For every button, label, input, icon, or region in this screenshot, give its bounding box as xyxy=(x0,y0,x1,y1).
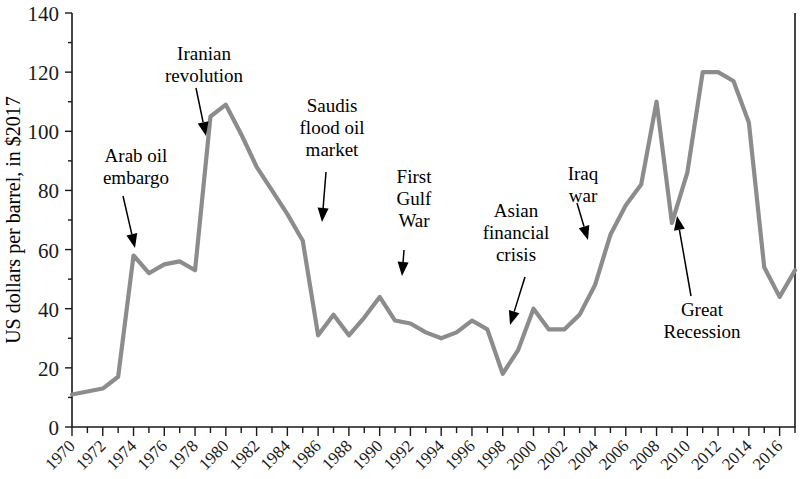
annotation-label: Saudis xyxy=(307,95,358,116)
chart-page: 020406080100120140 197019721974197619781… xyxy=(0,0,811,479)
y-axis-ticks: 020406080100120140 xyxy=(28,2,73,440)
x-tick-label: 1998 xyxy=(472,436,509,473)
oil-price-line-chart: 020406080100120140 197019721974197619781… xyxy=(0,0,811,479)
data-series-line xyxy=(72,72,795,394)
x-tick-label: 2012 xyxy=(687,436,724,473)
annotation-label: Iranian xyxy=(177,43,231,64)
y-tick-label: 20 xyxy=(38,357,59,381)
y-tick-label: 80 xyxy=(38,179,59,203)
annotation-label: Arab oil xyxy=(105,145,168,166)
annotation-label: market xyxy=(306,139,359,160)
y-tick-label: 60 xyxy=(38,239,59,263)
x-tick-label: 2004 xyxy=(564,436,602,474)
annotation-label: Asian xyxy=(494,200,539,221)
y-tick-label: 100 xyxy=(28,120,60,144)
annotation-label: Iraq xyxy=(568,163,599,184)
annotation-arrowhead xyxy=(318,208,329,222)
annotation-label: Great xyxy=(681,299,724,320)
y-tick-label: 40 xyxy=(38,298,59,322)
annotation-arrowhead xyxy=(398,262,409,276)
x-tick-label: 1976 xyxy=(134,436,171,473)
x-tick-label: 2014 xyxy=(718,436,756,474)
y-axis-title: US dollars per barrel, in $2017 xyxy=(2,96,25,344)
annotation-leader xyxy=(577,203,584,227)
annotation-label: War xyxy=(398,210,430,231)
annotation-arrowhead xyxy=(579,225,590,240)
annotation-leader xyxy=(679,230,691,296)
annotation-arrowhead xyxy=(674,216,685,231)
annotation-first-gulf-war: FirstGulfWar xyxy=(397,166,433,276)
chart-annotations: Arab oilembargoIranianrevolutionSaudisfl… xyxy=(103,43,741,342)
annotation-label: war xyxy=(569,185,598,206)
annotation-leader xyxy=(323,172,326,208)
price-line xyxy=(72,72,795,394)
annotation-leader xyxy=(403,250,404,262)
x-tick-label: 2016 xyxy=(749,436,786,473)
x-tick-label: 1970 xyxy=(41,436,78,473)
x-tick-label: 1994 xyxy=(411,436,449,474)
y-tick-label: 0 xyxy=(49,416,60,440)
annotation-label: First xyxy=(397,166,433,187)
annotation-label: Recession xyxy=(663,321,741,342)
x-tick-label: 1978 xyxy=(164,436,201,473)
annotation-label: Gulf xyxy=(397,188,433,209)
x-tick-label: 1986 xyxy=(287,436,324,473)
x-tick-label: 1988 xyxy=(318,436,355,473)
x-tick-label: 2008 xyxy=(626,436,663,473)
annotation-arrowhead xyxy=(509,310,519,325)
y-axis-label: US dollars per barrel, in $2017 xyxy=(2,96,25,344)
annotation-leader xyxy=(514,277,525,312)
x-tick-label: 1982 xyxy=(226,436,263,473)
x-tick-label: 1980 xyxy=(195,436,232,473)
x-tick-label: 2000 xyxy=(503,436,540,473)
x-tick-label: 2002 xyxy=(534,436,571,473)
x-tick-label: 1974 xyxy=(103,436,141,474)
annotation-leader xyxy=(123,196,132,234)
annotation-label: revolution xyxy=(165,65,244,86)
annotation-iraq-war: Iraqwar xyxy=(568,163,599,240)
y-tick-label: 140 xyxy=(28,2,60,26)
x-axis-ticks: 1970197219741976197819801982198419861988… xyxy=(41,427,795,474)
x-tick-label: 2010 xyxy=(657,436,694,473)
annotation-arrowhead xyxy=(126,233,137,248)
y-tick-label: 120 xyxy=(28,61,60,85)
annotation-arab-oil-embargo: Arab oilembargo xyxy=(103,145,169,248)
annotation-label: flood oil xyxy=(300,117,365,138)
annotation-label: financial xyxy=(483,222,549,243)
annotation-label: crisis xyxy=(496,244,536,265)
annotation-leader xyxy=(196,88,203,122)
x-tick-label: 2006 xyxy=(595,436,632,473)
x-tick-label: 1984 xyxy=(257,436,295,474)
x-tick-label: 1972 xyxy=(72,436,109,473)
annotation-label: embargo xyxy=(103,167,169,188)
x-tick-label: 1990 xyxy=(349,436,386,473)
x-tick-label: 1996 xyxy=(441,436,478,473)
annotation-asian-financial-crisis: Asianfinancialcrisis xyxy=(483,200,549,325)
annotation-saudis-flood-oil-market: Saudisflood oilmarket xyxy=(300,95,365,222)
annotation-iranian-revolution: Iranianrevolution xyxy=(165,43,244,136)
annotation-great-recession: GreatRecession xyxy=(663,216,741,342)
x-tick-label: 1992 xyxy=(380,436,417,473)
